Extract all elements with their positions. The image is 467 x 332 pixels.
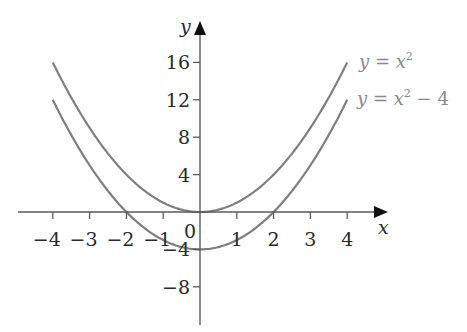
axes-layer: −4−3−2−11234 161284−4−8 x y 0 (18, 15, 389, 325)
y-axis-arrow-icon (194, 21, 206, 35)
x-tick-label: 4 (341, 228, 353, 250)
y-ticks: 161284−4−8 (162, 51, 200, 297)
legend-y-eq-x2: y = x2 (358, 50, 413, 72)
y-tick-label: 12 (166, 89, 190, 111)
x-tick-label: −3 (70, 228, 98, 250)
chart-canvas: −4−3−2−11234 161284−4−8 x y 0 y = x2 y =… (0, 0, 467, 332)
x-tick-label: 3 (304, 228, 316, 250)
x-tick-label: −4 (33, 228, 61, 250)
x-tick-label: −2 (106, 228, 134, 250)
y-tick-label: −8 (162, 276, 190, 298)
x-tick-label: 2 (268, 228, 280, 250)
curve-labels: y = x2 y = x2 − 4 (356, 50, 449, 109)
x-tick-label: 1 (231, 228, 243, 250)
y-tick-label: 4 (178, 164, 190, 186)
origin-label: 0 (184, 220, 196, 242)
y-tick-label: 16 (166, 51, 190, 73)
y-axis-label: y (179, 15, 191, 37)
legend-y-eq-x2-minus-4: y = x2 − 4 (356, 87, 449, 109)
x-axis-label: x (378, 216, 389, 238)
y-tick-label: 8 (178, 126, 190, 148)
